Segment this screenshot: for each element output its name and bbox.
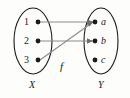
codomain-element-label-c: c	[101, 55, 105, 65]
domain-element-label-2: 2	[24, 36, 29, 46]
dot-3	[36, 58, 41, 63]
domain-set-label-x: X	[29, 80, 35, 90]
function-mapping-diagram: 1 2 3 a b c f X Y	[0, 0, 130, 98]
domain-element-label-3: 3	[24, 55, 29, 65]
codomain-set-label-y: Y	[98, 80, 104, 90]
dot-1	[36, 20, 41, 25]
dot-2	[36, 39, 41, 44]
codomain-element-label-b: b	[101, 36, 106, 46]
arrowhead-2-to-b	[87, 38, 93, 44]
diagram-canvas	[0, 0, 130, 98]
dot-a	[93, 20, 98, 25]
domain-element-label-1: 1	[24, 17, 29, 27]
dot-c	[93, 58, 98, 63]
codomain-element-label-a: a	[101, 17, 106, 27]
dot-b	[93, 39, 98, 44]
function-label-f: f	[60, 61, 63, 72]
